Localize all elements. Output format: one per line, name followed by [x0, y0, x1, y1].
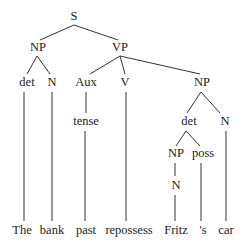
- tree-edge-np2-n2: [201, 92, 220, 113]
- parse-tree-svg: SNPVPdetNAuxVNPtensedetNNPpossNThebankpa…: [0, 0, 245, 244]
- tree-node-n1: N: [47, 75, 56, 89]
- tree-node-s: S: [71, 9, 78, 23]
- leaf-word-w-s: 's: [199, 223, 206, 237]
- tree-node-det1: det: [19, 75, 35, 89]
- tree-node-aux: Aux: [75, 75, 97, 89]
- tree-node-np2: NP: [194, 75, 210, 89]
- tree-node-v: V: [120, 75, 129, 89]
- tree-node-poss: poss: [192, 146, 214, 160]
- tree-edge-det2-poss: [186, 131, 200, 146]
- tree-edge-det2-np3: [176, 131, 186, 146]
- leaf-word-w-past: past: [76, 223, 97, 237]
- leaf-word-w-rep: repossess: [105, 223, 152, 237]
- tree-node-tense: tense: [73, 114, 99, 128]
- leaf-word-w-fritz: Fritz: [164, 223, 188, 237]
- tree-edge-np1-det1: [27, 56, 37, 74]
- leaf-word-w-the: The: [12, 223, 32, 237]
- tree-edge-np2-det2: [187, 92, 201, 113]
- tree-node-np3: NP: [168, 146, 184, 160]
- tree-edge-np1-n1: [37, 56, 50, 74]
- tree-edge-vp-v: [120, 56, 125, 74]
- tree-node-n2: N: [220, 114, 229, 128]
- tree-node-vp: VP: [112, 40, 128, 54]
- parse-tree-diagram: SNPVPdetNAuxVNPtensedetNNPpossNThebankpa…: [0, 0, 245, 244]
- leaf-word-w-bank: bank: [40, 223, 65, 237]
- tree-edge-s-np1: [40, 25, 74, 40]
- tree-edge-s-vp: [74, 25, 118, 40]
- leaf-word-w-car: car: [218, 223, 234, 237]
- tree-edge-vp-aux: [90, 56, 120, 74]
- tree-node-np1: NP: [30, 40, 46, 54]
- tree-node-n3: N: [171, 178, 180, 192]
- tree-node-det2: det: [181, 114, 197, 128]
- tree-edge-vp-np2: [120, 56, 200, 74]
